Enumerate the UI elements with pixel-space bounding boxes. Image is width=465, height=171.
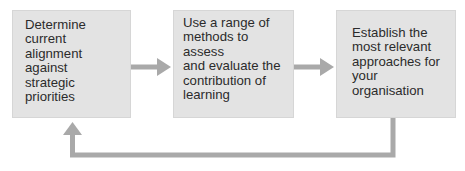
arrow-right-icon (131, 58, 171, 76)
feedback-loop-arrow-icon (63, 118, 393, 155)
connector-layer (0, 0, 465, 171)
arrow-right-icon (294, 58, 334, 76)
